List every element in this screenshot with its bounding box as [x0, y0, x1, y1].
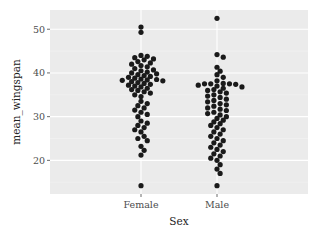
- data-point: [208, 123, 213, 128]
- data-point: [142, 134, 147, 139]
- data-point: [211, 110, 216, 115]
- x-axis-ticks: FemaleMale: [123, 194, 229, 210]
- data-point: [221, 138, 226, 143]
- data-point: [239, 84, 244, 89]
- data-point: [135, 136, 140, 141]
- data-point: [135, 88, 140, 93]
- data-point: [126, 83, 131, 88]
- data-point: [135, 123, 140, 128]
- data-point: [221, 81, 226, 86]
- data-point: [135, 114, 140, 119]
- x-tick-label: Female: [123, 199, 158, 210]
- data-point: [142, 148, 147, 153]
- data-point: [132, 92, 137, 97]
- data-point: [218, 153, 223, 158]
- data-point: [205, 93, 210, 98]
- beeswarm-chart: 20304050 FemaleMale Sex mean_wingspan: [0, 0, 323, 238]
- data-point: [208, 156, 213, 161]
- data-point: [224, 97, 229, 102]
- data-point: [218, 162, 223, 167]
- data-point: [120, 78, 125, 83]
- data-point: [208, 134, 213, 139]
- data-point: [138, 24, 143, 29]
- data-point: [132, 66, 137, 71]
- data-point: [138, 129, 143, 134]
- data-point: [208, 81, 213, 86]
- data-point: [224, 108, 229, 113]
- data-point: [129, 62, 134, 67]
- data-point: [132, 107, 137, 112]
- y-axis-title: mean_wingspan: [10, 59, 23, 145]
- data-point: [142, 89, 147, 94]
- data-point: [135, 103, 140, 108]
- y-tick-label: 20: [33, 155, 45, 166]
- data-point: [214, 166, 219, 171]
- data-point: [214, 136, 219, 141]
- data-point: [221, 55, 226, 60]
- data-point: [214, 78, 219, 83]
- data-point: [129, 87, 134, 92]
- data-point: [214, 125, 219, 130]
- data-point: [138, 118, 143, 123]
- data-point: [211, 87, 216, 92]
- data-point: [205, 99, 210, 104]
- data-point: [221, 127, 226, 132]
- data-point: [126, 75, 131, 80]
- data-point: [218, 95, 223, 100]
- data-point: [211, 140, 216, 145]
- y-tick-label: 30: [33, 111, 45, 122]
- data-point: [208, 145, 213, 150]
- data-point: [218, 89, 223, 94]
- data-point: [160, 78, 165, 83]
- data-point: [214, 16, 219, 21]
- data-point: [154, 71, 159, 76]
- data-point: [211, 151, 216, 156]
- data-point: [132, 127, 137, 132]
- data-point: [142, 125, 147, 130]
- x-axis-title: Sex: [169, 215, 188, 227]
- data-point: [218, 107, 223, 112]
- data-point: [214, 147, 219, 152]
- data-point: [221, 75, 226, 80]
- data-point: [138, 30, 143, 35]
- data-point: [214, 183, 219, 188]
- data-point: [129, 70, 134, 75]
- y-tick-label: 40: [33, 67, 45, 78]
- data-point: [138, 94, 143, 99]
- data-point: [138, 53, 143, 58]
- data-point: [221, 149, 226, 154]
- data-point: [214, 158, 219, 163]
- data-point: [196, 83, 201, 88]
- data-point: [148, 90, 153, 95]
- data-point: [138, 99, 143, 104]
- data-point: [154, 77, 159, 82]
- data-point: [138, 153, 143, 158]
- data-point: [211, 129, 216, 134]
- data-point: [233, 82, 238, 87]
- data-point: [138, 183, 143, 188]
- data-point: [218, 132, 223, 137]
- data-point: [142, 57, 147, 62]
- data-point: [145, 121, 150, 126]
- x-tick-label: Male: [205, 199, 229, 210]
- y-tick-label: 50: [33, 24, 45, 35]
- data-point: [211, 104, 216, 109]
- y-axis-ticks: 20304050: [33, 24, 50, 166]
- data-point: [227, 81, 232, 86]
- data-point: [145, 138, 150, 143]
- data-point: [145, 101, 150, 106]
- data-point: [214, 52, 219, 57]
- data-point: [224, 90, 229, 95]
- data-point: [205, 111, 210, 116]
- data-point: [218, 142, 223, 147]
- data-point: [138, 63, 143, 68]
- plot-panel: [50, 10, 308, 194]
- data-point: [224, 102, 229, 107]
- data-point: [218, 101, 223, 106]
- data-point: [202, 81, 207, 86]
- data-point: [211, 92, 216, 97]
- data-point: [205, 105, 210, 110]
- data-point: [145, 112, 150, 117]
- data-point: [145, 64, 150, 69]
- data-point: [138, 110, 143, 115]
